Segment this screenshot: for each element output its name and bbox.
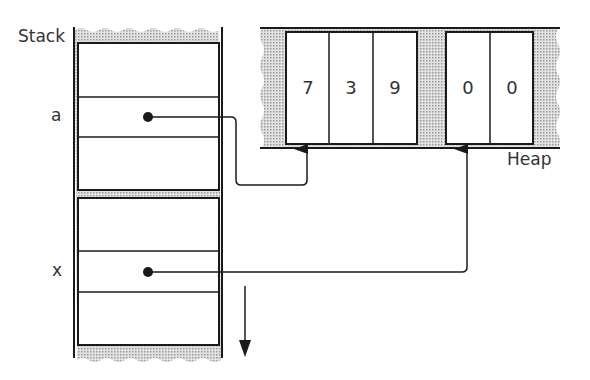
stack-growth-arrow <box>239 286 251 357</box>
heap-cell-value: 0 <box>492 79 532 97</box>
heap-label: Heap <box>507 151 551 168</box>
heap-cell-value: 7 <box>288 79 328 97</box>
stack-label: Stack <box>18 28 65 45</box>
heap-cell-value: 0 <box>448 79 488 97</box>
heap-cell-value: 3 <box>331 79 371 97</box>
heap-cell-value: 9 <box>375 79 415 97</box>
var-x-label: x <box>52 262 62 279</box>
var-a-label: a <box>51 107 61 124</box>
stack-heap-diagram <box>0 0 590 380</box>
